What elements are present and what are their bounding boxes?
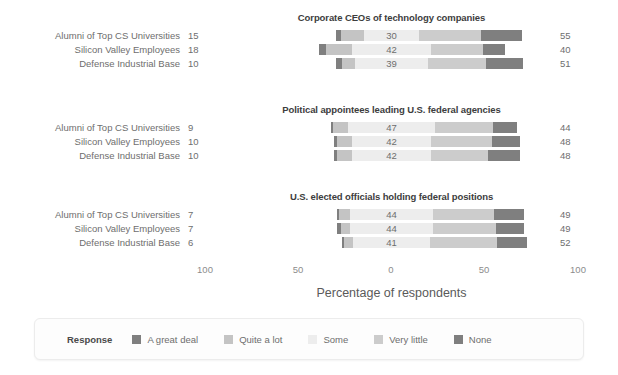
bar-segment-none [483, 44, 505, 55]
bar-segment-some [348, 122, 436, 133]
legend: Response A great deal Quite a lot Some V… [34, 318, 584, 360]
bar-segment-some [350, 223, 432, 234]
panel-title: Corporate CEOs of technology companies [205, 12, 578, 23]
bar-segment-none [497, 237, 527, 248]
row-label: Defense Industrial Base [0, 150, 180, 161]
legend-label: None [469, 334, 492, 345]
row-right-total: 48 [560, 136, 590, 147]
legend-title: Response [67, 334, 112, 345]
legend-label: A great deal [147, 334, 198, 345]
bar-segment-quite-a-lot [342, 58, 355, 69]
row-label: Defense Industrial Base [0, 237, 180, 248]
stacked-bar: 44 [205, 223, 578, 234]
table-row: Defense Industrial Base 10 42 48 [0, 150, 618, 161]
panel-title: Political appointees leading U.S. federa… [205, 104, 578, 115]
bar-segment-quite-a-lot [333, 122, 348, 133]
bar-segment-very-little [419, 30, 481, 41]
legend-swatch-icon [374, 335, 383, 344]
row-right-total: 51 [560, 58, 590, 69]
legend-item-very-little[interactable]: Very little [374, 334, 428, 345]
legend-item-none[interactable]: None [454, 334, 492, 345]
table-row: Alumni of Top CS Universities 9 47 44 [0, 122, 618, 133]
legend-swatch-icon [224, 335, 233, 344]
table-row: Silicon Valley Employees 18 42 40 [0, 44, 618, 55]
bar-segment-some [352, 44, 430, 55]
row-right-total: 44 [560, 122, 590, 133]
x-tick-label: 50 [278, 264, 318, 275]
row-label: Defense Industrial Base [0, 58, 180, 69]
bar-segment-none [494, 209, 524, 220]
bar-segment-some [352, 150, 430, 161]
x-tick-label: 0 [371, 264, 411, 275]
row-right-total: 55 [560, 30, 590, 41]
row-label: Alumni of Top CS Universities [0, 122, 180, 133]
row-right-total: 48 [560, 150, 590, 161]
bar-segment-quite-a-lot [344, 237, 353, 248]
legend-item-a-great-deal[interactable]: A great deal [132, 334, 198, 345]
bar-segment-very-little [433, 209, 495, 220]
bar-segment-very-little [431, 136, 493, 147]
legend-label: Some [323, 334, 348, 345]
stacked-bar: 41 [205, 237, 578, 248]
row-label: Silicon Valley Employees [0, 223, 180, 234]
bar-segment-a-great-deal [319, 44, 326, 55]
bar-segment-quite-a-lot [341, 30, 363, 41]
row-right-total: 40 [560, 44, 590, 55]
bar-segment-very-little [433, 223, 496, 234]
legend-label: Very little [389, 334, 428, 345]
bar-segment-none [481, 30, 522, 41]
bar-segment-none [493, 122, 517, 133]
table-row: Defense Industrial Base 10 39 51 [0, 58, 618, 69]
row-label: Alumni of Top CS Universities [0, 30, 180, 41]
bar-segment-quite-a-lot [337, 136, 352, 147]
bar-segment-some [350, 209, 432, 220]
stacked-bar: 39 [205, 58, 578, 69]
bar-segment-very-little [428, 58, 486, 69]
bar-segment-quite-a-lot [337, 150, 352, 161]
bar-segment-some [355, 58, 428, 69]
row-right-total: 49 [560, 209, 590, 220]
bar-segment-very-little [435, 122, 493, 133]
bar-segment-quite-a-lot [339, 209, 350, 220]
row-label: Silicon Valley Employees [0, 136, 180, 147]
likert-chart: Corporate CEOs of technology companies A… [0, 0, 618, 375]
row-label: Alumni of Top CS Universities [0, 209, 180, 220]
panel-title: U.S. elected officials holding federal p… [205, 191, 578, 202]
stacked-bar: 30 [205, 30, 578, 41]
bar-segment-none [492, 136, 520, 147]
table-row: Alumni of Top CS Universities 15 30 55 [0, 30, 618, 41]
row-right-total: 52 [560, 237, 590, 248]
bar-segment-some [364, 30, 420, 41]
table-row: Silicon Valley Employees 7 44 49 [0, 223, 618, 234]
row-label: Silicon Valley Employees [0, 44, 180, 55]
legend-label: Quite a lot [239, 334, 282, 345]
table-row: Defense Industrial Base 6 41 52 [0, 237, 618, 248]
table-row: Silicon Valley Employees 10 42 48 [0, 136, 618, 147]
legend-swatch-icon [308, 335, 317, 344]
x-tick-label: 50 [464, 264, 504, 275]
stacked-bar: 42 [205, 150, 578, 161]
stacked-bar: 42 [205, 44, 578, 55]
bar-segment-none [496, 223, 524, 234]
legend-swatch-icon [454, 335, 463, 344]
x-axis-title: Percentage of respondents [205, 286, 578, 300]
table-row: Alumni of Top CS Universities 7 44 49 [0, 209, 618, 220]
stacked-bar: 44 [205, 209, 578, 220]
bar-segment-very-little [431, 150, 489, 161]
x-tick-label: 100 [185, 264, 225, 275]
x-tick-label: 100 [558, 264, 598, 275]
bar-segment-some [353, 237, 429, 248]
bar-segment-some [352, 136, 430, 147]
bar-segment-quite-a-lot [326, 44, 352, 55]
legend-swatch-icon [132, 335, 141, 344]
stacked-bar: 47 [205, 122, 578, 133]
row-right-total: 49 [560, 223, 590, 234]
bar-segment-none [486, 58, 523, 69]
bar-segment-none [488, 150, 520, 161]
stacked-bar: 42 [205, 136, 578, 147]
legend-item-quite-a-lot[interactable]: Quite a lot [224, 334, 282, 345]
legend-item-some[interactable]: Some [308, 334, 348, 345]
bar-segment-quite-a-lot [341, 223, 350, 234]
bar-segment-very-little [431, 44, 483, 55]
bar-segment-very-little [430, 237, 497, 248]
